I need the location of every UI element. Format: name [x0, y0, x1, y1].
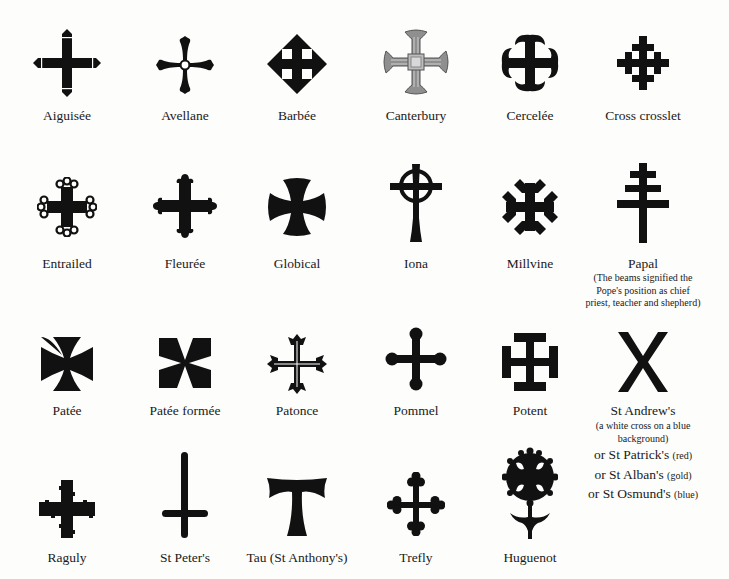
patee-formee-cross-icon	[159, 336, 211, 390]
cross-label: Cross crosslet	[563, 108, 723, 124]
huguenot-cross-icon	[502, 447, 558, 541]
cross-label: St Andrew's	[563, 403, 723, 419]
st-andrews-alternatives: or St Patrick's (red) or St Alban's (gol…	[543, 446, 729, 505]
st-peters-cross-icon	[161, 452, 209, 538]
pommel-cross-icon	[385, 327, 447, 391]
canterbury-cross-icon	[383, 29, 449, 95]
millvine-cross-icon	[498, 175, 562, 239]
entrailed-cross-icon	[37, 177, 97, 237]
papal-description: (The beams signified the Pope's position…	[553, 272, 729, 310]
cross-crosslet-icon	[616, 35, 670, 91]
potent-cross-icon	[502, 333, 558, 391]
barbee-cross-icon	[266, 33, 328, 95]
cross-label: Huguenot	[450, 550, 610, 566]
fleuree-cross-icon	[151, 172, 219, 240]
alt-st-patrick: or St Patrick's (red)	[543, 446, 729, 466]
st-andrews-description: (a white cross on a blue background)	[553, 420, 729, 445]
alt-st-osmund: or St Osmund's (blue)	[543, 485, 729, 505]
tau-cross-icon	[267, 478, 327, 536]
aiguisee-cross-icon	[32, 28, 102, 98]
cross-label: Papal	[563, 256, 723, 272]
avellane-cross-icon	[154, 34, 216, 96]
patee-cross-icon	[41, 337, 93, 391]
trefly-cross-icon	[387, 472, 445, 536]
patonce-cross-icon	[266, 333, 328, 395]
cercelee-cross-icon	[501, 33, 559, 93]
st-andrews-cross-icon	[618, 332, 668, 392]
iona-cross-icon	[388, 163, 444, 243]
alt-st-alban: or St Alban's (gold)	[543, 466, 729, 486]
globical-cross-icon	[268, 178, 326, 236]
raguly-cross-icon	[39, 480, 95, 538]
papal-cross-icon	[616, 163, 670, 243]
